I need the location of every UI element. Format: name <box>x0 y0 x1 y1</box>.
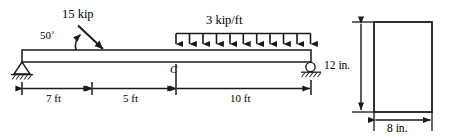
beam-member <box>22 50 311 62</box>
angle-label: 50˚ <box>40 30 55 41</box>
distributed-load <box>176 34 311 45</box>
roller-support <box>301 62 321 77</box>
point-load-label: 15 kip <box>62 8 94 21</box>
cross-section-rectangle <box>374 22 432 112</box>
pin-support <box>11 62 33 80</box>
dimension-label-7ft: 7 ft <box>46 93 61 104</box>
distributed-load-label: 3 kip/ft <box>206 14 242 27</box>
dimension-lines <box>22 64 311 95</box>
point-c-label: C <box>170 64 177 75</box>
point-load-arrow <box>78 26 103 50</box>
cross-section-height-label: 12 in. <box>324 60 350 72</box>
cross-section-width-label: 8 in. <box>387 123 407 135</box>
dimension-label-10ft: 10 ft <box>230 93 250 104</box>
angle-arc <box>76 35 81 51</box>
figure-canvas: 15 kip 50˚ 3 kip/ft C 7 ft 5 ft 10 ft 12… <box>0 0 454 138</box>
dimension-label-5ft: 5 ft <box>123 93 138 104</box>
